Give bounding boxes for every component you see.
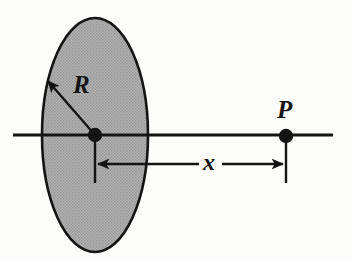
field-point-dot <box>279 129 293 143</box>
distance-label: x <box>203 150 215 174</box>
disk-center-dot <box>88 128 102 142</box>
field-point-label: P <box>277 97 292 122</box>
charged-disk-diagram: R P x <box>0 0 353 261</box>
diagram-canvas <box>0 0 353 261</box>
radius-label: R <box>73 72 90 97</box>
